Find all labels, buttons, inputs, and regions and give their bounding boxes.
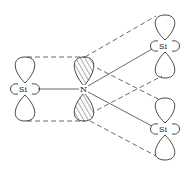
si-left-label: Si: [19, 85, 27, 94]
orbital-diagram: Si N Si Si: [0, 0, 190, 175]
n-label: N: [80, 85, 87, 94]
si-upper-right-label: Si: [159, 42, 167, 51]
si-left-orbital: Si: [11, 57, 40, 121]
si-upper-right-orbital: Si: [151, 15, 180, 78]
overlap-lines-right: [85, 16, 162, 156]
si-lower-right-orbital: Si: [151, 98, 180, 160]
si-lower-right-label: Si: [159, 125, 167, 134]
